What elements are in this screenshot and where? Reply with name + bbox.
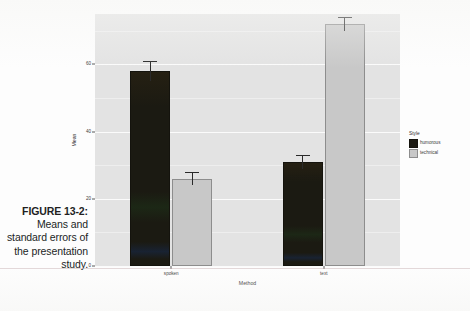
y-tick-mark [92,64,95,65]
bar-spoken-technical [172,179,212,266]
y-tick-mark [92,131,95,132]
y-axis-title: Mean [72,134,77,147]
error-bar-cap-top [143,61,157,62]
error-bar-cap-top [185,172,199,173]
legend-item-technical: technical [409,149,470,158]
y-tick-mark [92,266,95,267]
legend-swatch-humorous [409,139,418,148]
legend: Style humoroustechnical [409,132,470,159]
error-bar-stem [192,172,193,185]
x-tick-label-text: text [320,272,327,277]
figure-caption-text: Means and standard errors of the present… [0,218,88,271]
bar-text-humorous [283,162,323,266]
bar-chart-figure: 0204060 spokentext Mean Method Style hum… [95,14,400,266]
scan-artifact-rule [0,268,470,269]
bars-layer [95,14,400,266]
error-bar-cap-top [338,17,352,18]
gridline-major [95,266,400,267]
plot-panel [95,14,400,266]
legend-items: humoroustechnical [409,139,470,158]
error-bar-stem [302,155,303,168]
y-tick-label: 60 [86,62,91,67]
error-bar-stem [344,17,345,30]
legend-swatch-technical [409,149,418,158]
legend-title: Style [409,132,470,137]
bar-spoken-humorous [130,71,170,266]
error-bar-text-technical [338,17,352,30]
y-tick-mark [92,198,95,199]
figure-number: FIGURE 13-2: [0,205,88,218]
bar-text-technical [325,24,365,266]
error-bar-text-humorous [296,155,310,168]
error-bar-stem [150,61,151,81]
figure-caption: FIGURE 13-2: Means and standard errors o… [0,205,88,271]
x-axis-title: Method [95,281,400,286]
x-tick-label-spoken: spoken [164,272,179,277]
legend-label-humorous: humorous [420,141,440,146]
y-tick-label: 40 [86,129,91,134]
legend-item-humorous: humorous [409,139,470,148]
y-tick-label: 20 [86,197,91,202]
figure-page: FIGURE 13-2: Means and standard errors o… [0,0,470,311]
error-bar-spoken-technical [185,172,199,185]
legend-label-technical: technical [420,151,438,156]
error-bar-spoken-humorous [143,61,157,81]
error-bar-cap-top [296,155,310,156]
